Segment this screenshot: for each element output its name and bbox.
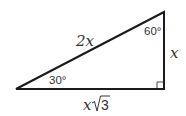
- triangle-diagram: 2x 60° x 30° x 3: [0, 0, 186, 116]
- base-label-root: 3: [101, 97, 109, 113]
- base-label: x 3: [83, 96, 110, 114]
- vertical-side-label: x: [170, 44, 179, 62]
- hypotenuse-label: 2x: [75, 32, 95, 50]
- top-angle-label: 60°: [144, 25, 161, 37]
- bottom-angle-label: 30°: [49, 74, 66, 86]
- base-label-x: x: [83, 96, 92, 114]
- triangle-shape: [16, 12, 164, 89]
- right-angle-marker: [157, 82, 164, 89]
